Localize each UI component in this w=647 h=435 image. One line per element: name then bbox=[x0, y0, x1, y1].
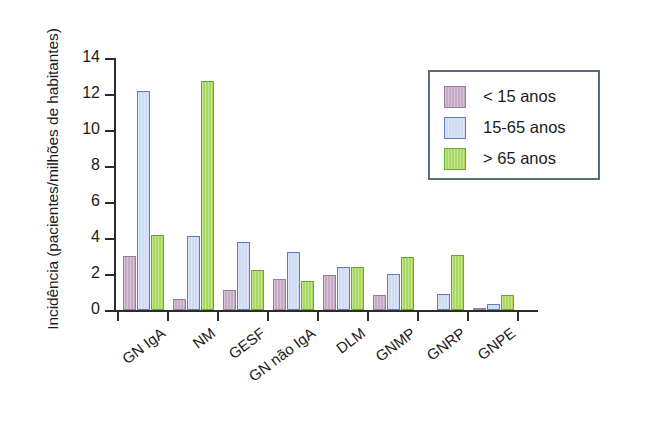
y-axis-tick-label: 10 bbox=[82, 120, 100, 138]
y-axis-tick: 10 bbox=[105, 130, 115, 132]
bar bbox=[473, 308, 486, 310]
bar bbox=[501, 295, 514, 310]
bar bbox=[323, 275, 336, 310]
legend-item[interactable]: > 65 anos bbox=[444, 143, 598, 174]
y-axis-tick: 6 bbox=[105, 202, 115, 204]
bar bbox=[187, 236, 200, 310]
bar bbox=[251, 270, 264, 311]
legend-item[interactable]: 15-65 anos bbox=[444, 112, 598, 143]
x-axis-line bbox=[114, 310, 538, 312]
bar bbox=[137, 91, 150, 310]
legend-swatch-icon bbox=[444, 86, 466, 108]
bar-group bbox=[373, 58, 414, 310]
bar-group bbox=[323, 58, 364, 310]
x-axis-tick bbox=[367, 312, 369, 321]
bar bbox=[273, 279, 286, 311]
y-axis-tick-label: 12 bbox=[82, 84, 100, 102]
bar bbox=[401, 257, 414, 310]
x-axis-tick bbox=[417, 312, 419, 321]
bar bbox=[451, 255, 464, 310]
y-axis-tick: 0 bbox=[105, 310, 115, 312]
bar-group bbox=[123, 58, 164, 310]
bar bbox=[173, 299, 186, 310]
bar-group bbox=[273, 58, 314, 310]
bar bbox=[201, 81, 214, 311]
bar bbox=[301, 281, 314, 310]
bar bbox=[351, 267, 364, 310]
bar bbox=[237, 242, 250, 310]
legend-label: 15-65 anos bbox=[483, 118, 566, 137]
y-axis-tick: 8 bbox=[105, 166, 115, 168]
y-axis-tick: 14 bbox=[105, 58, 115, 60]
x-axis-label: GNPE bbox=[348, 324, 518, 435]
legend: < 15 anos15-65 anos> 65 anos bbox=[428, 70, 600, 180]
bar bbox=[287, 252, 300, 311]
bar bbox=[437, 294, 450, 310]
y-axis-tick: 12 bbox=[105, 94, 115, 96]
legend-item[interactable]: < 15 anos bbox=[444, 81, 598, 112]
x-axis-tick bbox=[467, 312, 469, 321]
y-axis-title: Incidência (pacientes/milhões de habitan… bbox=[44, 14, 62, 344]
bar-group bbox=[223, 58, 264, 310]
bar-group bbox=[173, 58, 214, 310]
y-axis-tick: 2 bbox=[105, 274, 115, 276]
x-axis-tick bbox=[317, 312, 319, 321]
bar bbox=[337, 267, 350, 310]
legend-swatch-icon bbox=[444, 148, 466, 170]
legend-label: > 65 anos bbox=[483, 149, 556, 168]
x-axis-tick bbox=[517, 312, 519, 321]
bar bbox=[123, 256, 136, 310]
y-axis-tick-label: 6 bbox=[91, 192, 100, 210]
bar bbox=[387, 274, 400, 310]
y-axis-tick-label: 0 bbox=[91, 300, 100, 318]
bar bbox=[487, 304, 500, 310]
y-axis-tick-label: 8 bbox=[91, 156, 100, 174]
y-axis-tick-label: 2 bbox=[91, 264, 100, 282]
y-axis-tick-label: 4 bbox=[91, 228, 100, 246]
legend-label: < 15 anos bbox=[483, 87, 556, 106]
legend-swatch-icon bbox=[444, 117, 466, 139]
bar-chart: Incidência (pacientes/milhões de habitan… bbox=[0, 0, 647, 435]
bar bbox=[151, 235, 164, 310]
y-axis-tick-label: 14 bbox=[82, 48, 100, 66]
x-axis-tick bbox=[267, 312, 269, 321]
y-axis-tick: 4 bbox=[105, 238, 115, 240]
x-axis-tick bbox=[117, 312, 119, 321]
x-axis-tick bbox=[167, 312, 169, 321]
bar bbox=[373, 295, 386, 310]
bar bbox=[223, 290, 236, 310]
x-axis-tick bbox=[217, 312, 219, 321]
